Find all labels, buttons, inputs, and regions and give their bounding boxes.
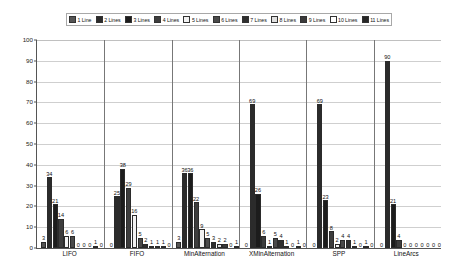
legend-item[interactable]: 11 Lines <box>362 16 389 23</box>
bar-slot[interactable]: 0 <box>109 40 114 248</box>
bar-slot[interactable]: 69 <box>250 40 255 248</box>
bar-slot[interactable]: 0 <box>379 40 384 248</box>
legend-item[interactable]: 10 Lines <box>330 16 358 23</box>
bar-slot[interactable]: 2 <box>217 40 222 248</box>
bar-slot[interactable]: 4 <box>278 40 283 248</box>
bar-slot[interactable]: 1 <box>155 40 160 248</box>
bar[interactable] <box>352 246 357 248</box>
bar[interactable] <box>267 246 272 248</box>
bar-slot[interactable]: 0 <box>408 40 413 248</box>
bar-slot[interactable]: 1 <box>149 40 154 248</box>
bar-slot[interactable]: 0 <box>414 40 419 248</box>
bar-slot[interactable]: 36 <box>188 40 193 248</box>
bar[interactable] <box>161 246 166 248</box>
bar-slot[interactable]: 0 <box>419 40 424 248</box>
bar-slot[interactable]: 0 <box>76 40 81 248</box>
bar[interactable] <box>250 104 255 248</box>
legend-item[interactable]: 5 Lines <box>183 16 208 23</box>
bar-slot[interactable]: 34 <box>47 40 52 248</box>
legend-item[interactable]: 7 Lines <box>242 16 267 23</box>
bar[interactable] <box>217 244 222 248</box>
bar[interactable] <box>47 177 52 248</box>
bar-slot[interactable]: 0 <box>302 40 307 248</box>
bar[interactable] <box>149 246 154 248</box>
bar-slot[interactable]: 0 <box>358 40 363 248</box>
bar-slot[interactable]: 21 <box>391 40 396 248</box>
bar[interactable] <box>363 246 368 248</box>
bar-slot[interactable]: 2 <box>335 40 340 248</box>
bar[interactable] <box>317 104 322 248</box>
bar-slot[interactable]: 1 <box>267 40 272 248</box>
bar-slot[interactable]: 6 <box>64 40 69 248</box>
bar-slot[interactable]: 1 <box>363 40 368 248</box>
bar-slot[interactable]: 6 <box>70 40 75 248</box>
bar-slot[interactable]: 0 <box>166 40 171 248</box>
bar-slot[interactable]: 0 <box>437 40 442 248</box>
bar-slot[interactable]: 29 <box>126 40 131 248</box>
bar-slot[interactable]: 8 <box>329 40 334 248</box>
bar[interactable] <box>323 200 328 248</box>
bar[interactable] <box>222 244 227 248</box>
bar[interactable] <box>211 242 216 248</box>
bar[interactable] <box>335 244 340 248</box>
bar-slot[interactable]: 1 <box>234 40 239 248</box>
bar-slot[interactable]: 3 <box>176 40 181 248</box>
bar[interactable] <box>261 236 266 248</box>
bar[interactable] <box>329 231 334 248</box>
bar-slot[interactable]: 2 <box>143 40 148 248</box>
bar[interactable] <box>340 240 345 248</box>
bar-slot[interactable]: 25 <box>114 40 119 248</box>
bar-slot[interactable]: 5 <box>273 40 278 248</box>
bar[interactable] <box>182 173 187 248</box>
bar-slot[interactable]: 3 <box>41 40 46 248</box>
bar-slot[interactable]: 0 <box>290 40 295 248</box>
bar[interactable] <box>53 204 58 248</box>
bar-slot[interactable]: 5 <box>205 40 210 248</box>
legend-item[interactable]: 4 Lines <box>154 16 179 23</box>
bar[interactable] <box>255 194 260 248</box>
bar[interactable] <box>188 173 193 248</box>
bar-slot[interactable]: 16 <box>132 40 137 248</box>
bar[interactable] <box>199 229 204 248</box>
bar-slot[interactable]: 90 <box>385 40 390 248</box>
bar-slot[interactable]: 0 <box>99 40 104 248</box>
bar-slot[interactable]: 0 <box>311 40 316 248</box>
bar[interactable] <box>176 242 181 248</box>
bar[interactable] <box>273 238 278 248</box>
bar-slot[interactable]: 0 <box>228 40 233 248</box>
bar-slot[interactable]: 0 <box>402 40 407 248</box>
bar[interactable] <box>58 219 63 248</box>
bar[interactable] <box>138 238 143 248</box>
bar-slot[interactable]: 4 <box>340 40 345 248</box>
legend-item[interactable]: 2 Lines <box>96 16 121 23</box>
bar[interactable] <box>385 61 390 248</box>
bar[interactable] <box>126 188 131 248</box>
bar-slot[interactable]: 4 <box>346 40 351 248</box>
bar[interactable] <box>194 202 199 248</box>
bar-slot[interactable]: 69 <box>317 40 322 248</box>
legend-item[interactable]: 9 Lines <box>300 16 325 23</box>
bar-slot[interactable]: 1 <box>352 40 357 248</box>
legend-item[interactable]: 1 Line <box>69 16 91 23</box>
bar-slot[interactable]: 1 <box>296 40 301 248</box>
bar[interactable] <box>284 246 289 248</box>
bar-slot[interactable]: 1 <box>93 40 98 248</box>
bar-slot[interactable]: 6 <box>261 40 266 248</box>
bar[interactable] <box>205 238 210 248</box>
bar-slot[interactable]: 1 <box>284 40 289 248</box>
bar[interactable] <box>143 244 148 248</box>
bar-slot[interactable]: 36 <box>182 40 187 248</box>
bar-slot[interactable]: 22 <box>194 40 199 248</box>
bar-slot[interactable]: 0 <box>81 40 86 248</box>
bar[interactable] <box>132 215 137 248</box>
bar[interactable] <box>41 242 46 248</box>
bar-slot[interactable]: 26 <box>255 40 260 248</box>
bar[interactable] <box>296 246 301 248</box>
bar-slot[interactable]: 3 <box>211 40 216 248</box>
bar-slot[interactable]: 1 <box>161 40 166 248</box>
bar[interactable] <box>70 236 75 248</box>
bar[interactable] <box>278 240 283 248</box>
bar[interactable] <box>234 246 239 248</box>
bar-slot[interactable]: 0 <box>369 40 374 248</box>
bar[interactable] <box>64 236 69 248</box>
